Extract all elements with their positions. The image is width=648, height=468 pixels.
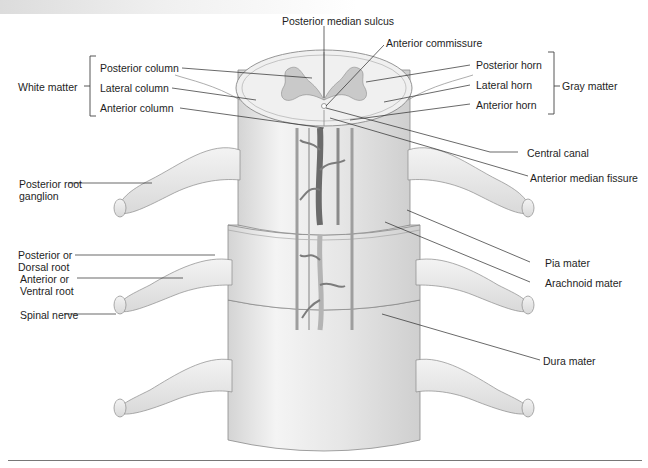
label-anterior-commissure: Anterior commissure: [386, 37, 482, 49]
label-spinal-nerve: Spinal nerve: [20, 309, 78, 321]
label-anterior-column: Anterior column: [100, 102, 174, 114]
label-posterior-column: Posterior column: [100, 62, 179, 74]
label-arachnoid-mater: Arachnoid mater: [545, 277, 622, 289]
label-pia-mater: Pia mater: [545, 257, 590, 269]
label-central-canal: Central canal: [527, 147, 589, 159]
bottom-rule: [8, 460, 642, 461]
gray-matter-bracket: [548, 52, 560, 114]
spinal-cord-illustration: [0, 0, 648, 468]
label-anterior-median-fissure: Anterior median fissure: [530, 172, 638, 184]
label-posterior-median-sulcus: Posterior median sulcus: [282, 15, 394, 27]
label-anterior-ventral-root: Anterior or Ventral root: [20, 273, 80, 297]
label-lateral-horn: Lateral horn: [476, 79, 532, 91]
label-posterior-horn: Posterior horn: [476, 59, 542, 71]
label-lateral-column: Lateral column: [100, 82, 169, 94]
label-anterior-horn: Anterior horn: [476, 99, 537, 111]
dura-mater-shape: [228, 300, 420, 451]
label-posterior-root-ganglion: Posterior root ganglion: [19, 178, 89, 202]
label-posterior-dorsal-root: Posterior or Dorsal root: [18, 249, 78, 273]
arachnoid-mater-shape: [228, 225, 420, 310]
white-matter-bracket: [84, 56, 96, 116]
label-white-matter: White matter: [18, 81, 78, 93]
label-gray-matter: Gray matter: [562, 80, 617, 92]
label-dura-mater: Dura mater: [543, 355, 596, 367]
